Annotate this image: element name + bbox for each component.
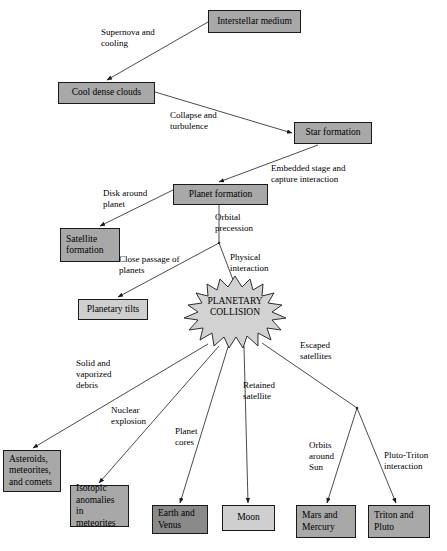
edge-label-disk-around-planet: Disk around planet xyxy=(103,188,147,210)
node-interstellar-medium[interactable]: Interstellar medium xyxy=(208,10,301,33)
edge-label-nuclear-explosion: Nuclear explosion xyxy=(111,405,146,427)
edge-label-supernova-and-cooling: Supernova and cooling xyxy=(101,27,155,49)
node-label: Interstellar medium xyxy=(217,16,292,28)
node-label: Satellite formation xyxy=(66,234,103,257)
edge-label-solid-and-vaporized-debris: Solid and vaporized debris xyxy=(76,358,111,391)
edge-collision-to-moon xyxy=(244,346,248,503)
node-cool-dense-clouds[interactable]: Cool dense clouds xyxy=(58,82,155,104)
node-star-formation[interactable]: Star formation xyxy=(294,122,372,144)
node-asteroids[interactable]: Asteroids, meteorites, and comets xyxy=(3,450,61,492)
node-isotopic-anomalies[interactable]: Isotopic anomalies in meteorites xyxy=(70,485,129,527)
edge-junction-dot-2 xyxy=(356,407,359,410)
edge-label-physical-interaction: Physical interaction xyxy=(230,252,268,274)
edge-junction-dot-1 xyxy=(218,242,221,245)
node-label: Triton and Pluto xyxy=(374,510,414,533)
edge-label-orbital-precession: Orbital precession xyxy=(215,212,253,234)
node-label: Asteroids, meteorites, and comets xyxy=(9,454,52,489)
edge-label-planet-cores: Planet cores xyxy=(175,426,198,448)
edge-label-close-passage-of-planets: Close passage of planets xyxy=(119,254,180,276)
node-label: Star formation xyxy=(305,127,360,139)
node-mars-and-mercury[interactable]: Mars and Mercury xyxy=(296,505,356,538)
edge-label-embedded-stage: Embedded stage and capture interaction xyxy=(271,163,345,185)
edge-label-escaped-satellites: Escaped satellites xyxy=(300,340,332,362)
node-moon[interactable]: Moon xyxy=(222,505,275,531)
planetary-collision-label: PLANETARY COLLISION xyxy=(182,296,288,318)
edge-label-orbits-around-sun: Orbits around Sun xyxy=(309,440,334,473)
node-label: Earth and Venus xyxy=(158,508,195,531)
node-label: Moon xyxy=(237,512,260,524)
node-label: Mars and Mercury xyxy=(302,510,338,533)
node-label: Cool dense clouds xyxy=(72,87,142,99)
node-satellite-formation[interactable]: Satellite formation xyxy=(60,228,120,262)
flow-diagram: PLANETARY COLLISION Interstellar mediumC… xyxy=(0,0,447,551)
node-triton-and-pluto[interactable]: Triton and Pluto xyxy=(368,505,430,538)
node-label: Planetary tilts xyxy=(87,304,140,316)
edge-label-collapse-and-turbulence: Collapse and turbulence xyxy=(170,110,217,132)
node-planetary-tilts[interactable]: Planetary tilts xyxy=(78,299,148,320)
node-label: Planet formation xyxy=(189,189,253,201)
edge-collision-to-earth xyxy=(180,347,228,503)
edge-label-retained-satellite: Retained satellite xyxy=(243,380,275,402)
node-earth-and-venus[interactable]: Earth and Venus xyxy=(152,505,208,534)
edge-label-pluto-triton-interaction: Pluto-Triton interaction xyxy=(384,450,428,472)
node-label: Isotopic anomalies in meteorites xyxy=(76,483,123,529)
node-planet-formation[interactable]: Planet formation xyxy=(173,184,268,205)
